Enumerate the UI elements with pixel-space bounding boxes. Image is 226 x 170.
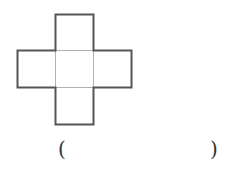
net-outline bbox=[18, 15, 132, 125]
plus-shaped-net-diagram bbox=[0, 0, 226, 170]
answer-left-paren: ( bbox=[58, 139, 66, 159]
inner-lines bbox=[56, 51, 94, 88]
answer-right-paren: ) bbox=[210, 139, 218, 159]
